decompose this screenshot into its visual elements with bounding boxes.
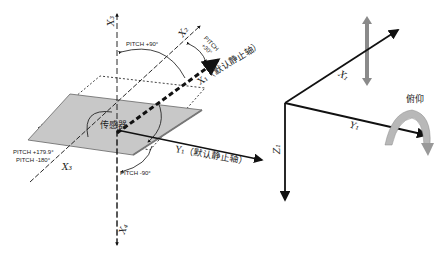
x-axis-right (285, 30, 398, 103)
z-right-label: Z₁ (272, 144, 282, 155)
pitch-plus90-label: PITCH +90° (126, 41, 159, 47)
pitch-rotation-arrow (385, 110, 430, 145)
pitch-minus180-label: PITCH -180° (16, 157, 51, 163)
y1-label: Y₁（默认静止轴） (174, 143, 248, 167)
pitch-rotation-label: 俯仰 (406, 93, 424, 104)
x-right-label: X₁ (336, 68, 351, 83)
right-diagram: X₁ Y₁ Z₁ 俯仰 (272, 16, 434, 200)
left-diagram: X₃ X₂ X₁（默认静止轴） Y₁（默认静止轴） X₃ X₄ PITCH +9… (13, 14, 263, 245)
pitch-179-label: PITCH +179.9° (13, 149, 54, 155)
x2-label: X₂ (176, 24, 191, 39)
pitch-minus90-label: PITCH -90° (120, 170, 151, 176)
y-right-label: Y₁ (349, 120, 361, 132)
x-upper-label: X₃ (106, 16, 116, 27)
x3-label: X₃ (61, 162, 72, 172)
pitch-axis-diagram: X₃ X₂ X₁（默认静止轴） Y₁（默认静止轴） X₃ X₄ PITCH +9… (0, 0, 445, 254)
x-lower-label: X₄ (117, 222, 130, 236)
pitch-plus90-arc (121, 49, 185, 78)
sensor-label: 传感器 (100, 119, 127, 130)
x2-axis (30, 26, 200, 182)
